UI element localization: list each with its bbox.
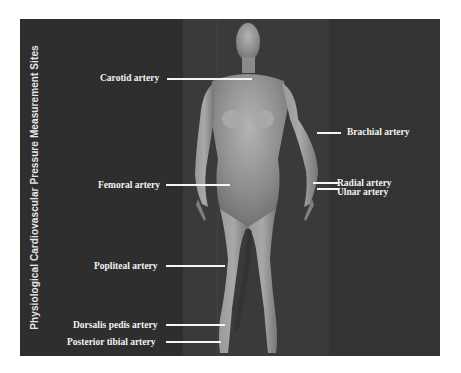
leader-line-dorsalis-pedis (166, 324, 225, 326)
figure-panel: Physiological Cardiovascular Pressure Me… (20, 19, 440, 356)
label-ulnar-artery: Ulnar artery (337, 187, 388, 197)
head-shape (236, 23, 260, 61)
right-leg-shape (248, 209, 277, 353)
leader-line-carotid (167, 78, 252, 80)
label-carotid-artery: Carotid artery (100, 73, 159, 83)
leader-line-ulnar (317, 188, 339, 190)
leader-line-femoral (166, 184, 230, 186)
left-arm-shape (195, 83, 214, 207)
label-posterior-tibial-artery: Posterior tibial artery (67, 337, 155, 347)
label-popliteal-artery: Popliteal artery (94, 261, 158, 271)
leader-line-radial (313, 182, 339, 184)
leader-line-posterior-tibial (166, 341, 221, 343)
torso-shape (210, 74, 288, 229)
label-brachial-artery: Brachial artery (347, 127, 410, 137)
right-arm-shape (282, 83, 318, 207)
label-femoral-artery: Femoral artery (98, 180, 160, 190)
leader-line-popliteal (166, 265, 225, 267)
label-dorsalis-pedis-artery: Dorsalis pedis artery (73, 320, 157, 330)
leader-line-brachial (317, 132, 341, 134)
